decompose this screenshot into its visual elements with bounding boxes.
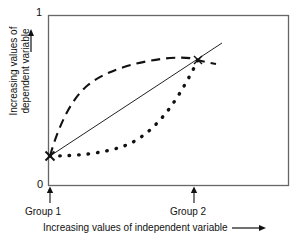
chart-plot-area: [0, 0, 303, 240]
x-axis-title: Increasing values of independent variabl…: [43, 222, 228, 233]
group1-label: Group 1: [25, 206, 61, 217]
group1-tick-arrow: [47, 187, 53, 204]
chart-figure: 1 0 Group 1 Group 2 Increasing values of…: [0, 0, 303, 240]
plot-frame: [49, 16, 289, 186]
y-axis-tick-top: 1: [36, 7, 42, 18]
group2-tick-arrow: [191, 187, 197, 204]
y-axis-tick-bottom: 0: [37, 179, 43, 190]
group2-label: Group 2: [170, 206, 206, 217]
y-axis-title: Increasing values of dependent variable: [8, 6, 32, 136]
xaxis-arrow-icon: [232, 225, 266, 231]
y-axis-title-wrap: Increasing values of dependent variable: [8, 6, 34, 136]
